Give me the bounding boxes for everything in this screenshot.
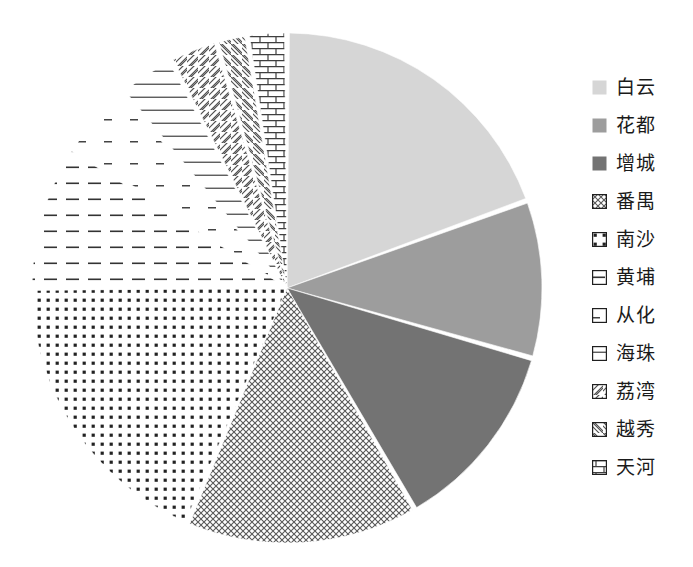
legend-item-label: 增城 (616, 154, 655, 173)
legend-item-增城[interactable]: 增城 (592, 144, 693, 182)
swatch-horizontal-lines-icon (592, 346, 607, 361)
swatch-solid-light-icon (592, 80, 607, 95)
legend-item-label: 天河 (616, 458, 655, 477)
legend-item-label: 海珠 (616, 344, 655, 363)
legend-item-label: 从化 (616, 306, 655, 325)
swatch-horizontal-dashes-icon (592, 270, 607, 285)
swatch-dots-icon (592, 232, 607, 247)
legend-item-天河[interactable]: 天河 (592, 448, 693, 486)
legend-item-label: 南沙 (616, 230, 655, 249)
legend-item-南沙[interactable]: 南沙 (592, 220, 693, 258)
legend-item-label: 荔湾 (616, 382, 655, 401)
legend-item-花都[interactable]: 花都 (592, 106, 693, 144)
legend-item-label: 越秀 (616, 420, 655, 439)
legend-item-海珠[interactable]: 海珠 (592, 334, 693, 372)
legend-item-白云[interactable]: 白云 (592, 68, 693, 106)
swatch-solid-medium-icon (592, 118, 607, 133)
pie-chart-figure: 白云花都增城番禺南沙黄埔从化海珠荔湾越秀天河 (0, 0, 693, 567)
legend-item-番禺[interactable]: 番禺 (592, 182, 693, 220)
swatch-diagonal-backslash-icon (592, 384, 607, 399)
pie-slice-group (32, 33, 542, 543)
swatch-crosshatch-icon (592, 194, 607, 209)
legend-item-从化[interactable]: 从化 (592, 296, 693, 334)
legend-item-越秀[interactable]: 越秀 (592, 410, 693, 448)
swatch-sparse-dashes-icon (592, 308, 607, 323)
swatch-solid-dark-icon (592, 156, 607, 171)
legend-item-label: 番禺 (616, 192, 655, 211)
swatch-brick-icon (592, 460, 607, 475)
legend-item-label: 花都 (616, 116, 655, 135)
legend-item-黄埔[interactable]: 黄埔 (592, 258, 693, 296)
chart-legend: 白云花都增城番禺南沙黄埔从化海珠荔湾越秀天河 (592, 68, 693, 486)
legend-item-荔湾[interactable]: 荔湾 (592, 372, 693, 410)
pie-chart-plot-area (0, 0, 560, 567)
pie-chart-svg (0, 0, 560, 567)
swatch-diagonal-slash-icon (592, 422, 607, 437)
legend-item-label: 黄埔 (616, 268, 655, 287)
legend-item-label: 白云 (616, 78, 655, 97)
